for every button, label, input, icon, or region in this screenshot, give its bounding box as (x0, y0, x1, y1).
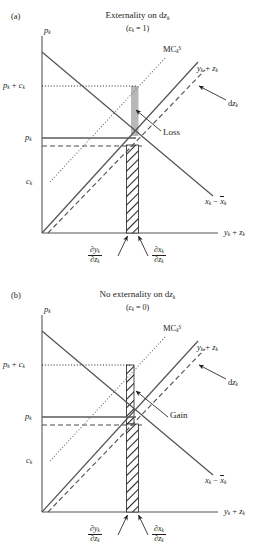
hatched-quantity-band (127, 145, 139, 233)
curve-label-dz: dzk (228, 378, 238, 388)
curve-label-social-marginal-cost: MCkS (163, 324, 181, 334)
dy-dz-callout-arrow (118, 236, 128, 256)
supply-curve (42, 341, 198, 512)
panel-title-sub: k (167, 15, 170, 21)
panel-b-no-externality: (b) No externality on dzk (εk = 0) pk yk… (0, 279, 275, 558)
panel-title-sub: k (173, 294, 176, 300)
y-axis-label-sub: k (48, 308, 50, 314)
curve-label-supply: yk + zk (197, 64, 218, 74)
mc-label-sup: S (179, 45, 182, 51)
ytick-label-cost: ck (26, 456, 32, 466)
panel-subtitle: (εk = 1) (0, 25, 275, 33)
area-label-gain: Gain (170, 411, 188, 420)
ytick-label-cost: ck (26, 177, 32, 187)
curve-label-social-marginal-cost: MCkS (163, 45, 181, 55)
dx-dz-denominator: ∂zk (152, 255, 166, 265)
bottom-label-dx-dz: ∂xk ∂zk (152, 525, 166, 543)
curve-label-demand: xk − xk (205, 197, 226, 207)
dx-dz-callout-arrow (139, 236, 149, 256)
bottom-label-dy-dz: ∂yk ∂zk (88, 246, 102, 264)
dx-dz-callout-arrow (139, 515, 149, 535)
panel-title: No externality on dzk (0, 290, 275, 300)
curve-label-demand: xk − xk (205, 476, 226, 486)
dy-dz-denominator: ∂zk (88, 534, 102, 544)
ytick-label-price-plus-cost: pk + ck (3, 360, 25, 370)
bottom-label-dx-dz: ∂xk ∂zk (152, 246, 166, 264)
dx-dz-denominator: ∂zk (152, 534, 166, 544)
ytick-label-price-plus-cost: pk + ck (3, 81, 25, 91)
dy-dz-numerator: ∂yk (88, 246, 102, 255)
panel-title-text: Externality on d (105, 10, 163, 20)
mc-label-text: MC (163, 323, 176, 333)
x-axis-label-z-sub: k (243, 510, 245, 516)
dz-callout-arrow (199, 365, 226, 379)
dx-dz-numerator: ∂xk (152, 246, 166, 255)
curve-label-supply: yk + zk (197, 343, 218, 353)
y-axis-label-sub: k (48, 29, 50, 35)
mc-label-text: MC (163, 44, 176, 54)
hatched-quantity-band (127, 424, 139, 512)
y-axis-label: pk (44, 305, 51, 315)
dy-dz-numerator: ∂yk (88, 525, 102, 534)
panel-a-externality: (a) Externality on dzk (εk = 1) pk yk + … (0, 0, 275, 279)
panel-title-text: No externality on d (100, 289, 170, 299)
dy-dz-callout-arrow (118, 515, 128, 535)
x-axis-label-plus: + (230, 227, 239, 237)
dz-callout-arrow (199, 86, 226, 100)
x-axis-label: yk + zk (224, 228, 245, 238)
panel-title: Externality on dzk (0, 11, 275, 21)
area-label-loss: Loss (163, 128, 180, 137)
panel-subtitle: (εk = 0) (0, 304, 275, 312)
x-axis-label-z-sub: k (243, 231, 245, 237)
x-axis-label: yk + zk (224, 507, 245, 517)
subtitle-equation: = 0) (134, 303, 149, 312)
dx-dz-numerator: ∂xk (152, 525, 166, 534)
supply-curve (42, 62, 198, 233)
y-axis-label: pk (44, 26, 51, 36)
mc-label-sup: S (179, 324, 182, 330)
x-axis-label-plus: + (230, 506, 239, 516)
bottom-label-dy-dz: ∂yk ∂zk (88, 525, 102, 543)
curve-label-dz: dzk (228, 99, 238, 109)
dy-dz-denominator: ∂zk (88, 255, 102, 265)
social-marginal-cost-curve (50, 336, 166, 461)
ytick-label-price: pk (25, 133, 32, 143)
subtitle-equation: = 1) (134, 24, 149, 33)
ytick-label-price: pk (25, 412, 32, 422)
social-marginal-cost-curve (50, 57, 166, 182)
